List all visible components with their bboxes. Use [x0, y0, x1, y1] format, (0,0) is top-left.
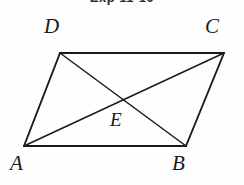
side-CB: [186, 53, 224, 146]
vertex-label-d: D: [44, 16, 59, 37]
geometry-figure: Exp 11-10 D C A B E: [0, 0, 244, 185]
vertex-label-e: E: [110, 110, 122, 129]
vertex-label-a: A: [10, 153, 23, 174]
vertex-label-b: B: [172, 153, 185, 174]
vertex-label-c: C: [205, 16, 219, 37]
diagonal-DB: [60, 53, 186, 146]
